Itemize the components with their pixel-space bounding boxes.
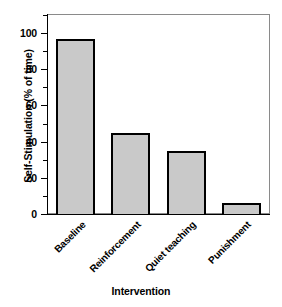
y-tick-label-0: 0 <box>3 209 37 220</box>
bar-reinforcement <box>111 133 150 214</box>
y-tick-0 <box>41 214 48 215</box>
y-axis-title: Self-Stimulation (% of time) <box>22 26 34 206</box>
x-tick-label-text: Reinforcement <box>87 219 142 274</box>
x-tick-label-text: Baseline <box>52 219 88 255</box>
x-axis-line <box>47 214 270 215</box>
bar-baseline <box>56 39 95 214</box>
x-tick-label-text: Quiet teaching <box>143 219 198 274</box>
bar-chart-figure: 020406080100 Self-Stimulation (% of time… <box>0 0 282 307</box>
x-axis-title: Intervention <box>0 285 282 297</box>
x-tick-label-text: Punishment <box>206 219 253 266</box>
